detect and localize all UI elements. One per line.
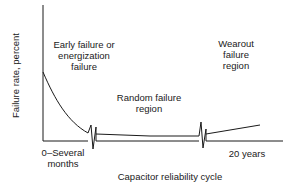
x-tick-end-line: 20 years — [222, 148, 272, 159]
y-axis-label: Failure rate, percent — [10, 21, 21, 131]
random-failure-label: Random failure region — [112, 92, 186, 114]
early-failure-curve — [43, 72, 88, 133]
x-tick-start-line: months — [38, 158, 88, 169]
wearout-failure-label: Wearout failure region — [208, 38, 264, 71]
early-failure-label-line: failure — [44, 61, 124, 72]
wearout-failure-line — [206, 125, 260, 134]
axis-break-1-icon — [88, 125, 96, 149]
wearout-failure-label-line: region — [208, 60, 264, 71]
random-failure-label-line: Random failure — [112, 92, 186, 103]
x-axis-label: Capacitor reliability cycle — [100, 171, 240, 182]
random-failure-label-line: region — [112, 103, 186, 114]
random-failure-line — [96, 134, 199, 136]
axis-break-2-icon — [199, 122, 206, 148]
wearout-failure-label-line: failure — [208, 49, 264, 60]
early-failure-label: Early failure or energization failure — [44, 39, 124, 72]
x-tick-start-line: 0–Several — [38, 147, 88, 158]
early-failure-label-line: energization — [44, 50, 124, 61]
x-tick-start-label: 0–Several months — [38, 147, 88, 169]
x-tick-end-label: 20 years — [222, 148, 272, 159]
wearout-failure-label-line: Wearout — [208, 38, 264, 49]
early-failure-label-line: Early failure or — [44, 39, 124, 50]
